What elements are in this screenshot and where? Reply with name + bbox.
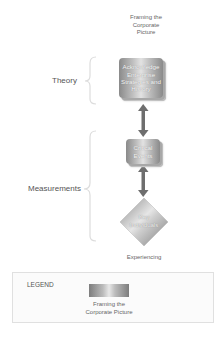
legend-swatch <box>89 284 129 297</box>
arrow-head-down <box>138 190 149 197</box>
double-arrow-connector <box>138 104 149 137</box>
node-text-line: Individuals <box>120 222 168 230</box>
node-key-individuals: Key Individuals <box>120 214 168 229</box>
legend-label-line: Framing the <box>79 301 139 309</box>
arrow-head-up <box>138 104 149 111</box>
node-text-line: Acknowledge <box>121 63 161 70</box>
node-text-line: Enterprise <box>121 71 161 78</box>
arrow-shaft <box>142 109 146 133</box>
arrow-head-down <box>138 130 149 137</box>
node-text-line: Critical <box>134 144 153 151</box>
legend-title: LEGEND <box>27 281 54 288</box>
theory-bracket <box>85 57 96 104</box>
measurements-bracket <box>84 131 96 241</box>
node-critical-events: Critical Events <box>126 139 160 164</box>
legend-label-line: Corporate Picture <box>79 309 139 317</box>
node-text-line: Events <box>134 152 153 159</box>
node-acknowledge-enterprise: Acknowledge Enterprise Strategies and Hi… <box>119 58 163 98</box>
double-arrow-connector <box>138 165 149 197</box>
arrow-shaft <box>142 170 146 193</box>
node-text-line: Key <box>120 214 168 222</box>
legend-item-label: Framing the Corporate Picture <box>79 301 139 316</box>
legend: LEGEND Framing the Corporate Picture <box>12 272 214 323</box>
node-text-line: Strategies and <box>121 78 161 85</box>
node-text-line: History <box>121 85 161 92</box>
bottom-label: Experiencing <box>118 254 170 262</box>
